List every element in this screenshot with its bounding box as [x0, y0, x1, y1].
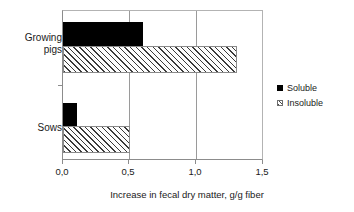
- x-tick-mark-0: [62, 160, 63, 164]
- x-axis-title: Increase in fecal dry matter, g/g fiber: [0, 189, 354, 200]
- legend: Soluble Insoluble: [277, 83, 323, 108]
- x-tick-mark-3: [262, 160, 263, 164]
- legend-item-soluble: Soluble: [277, 83, 323, 93]
- y-axis-tick-mid: [58, 85, 62, 86]
- legend-label-insoluble: Insoluble: [287, 98, 323, 108]
- bar-sows-soluble: [63, 103, 77, 126]
- x-tick-mark-1: [128, 160, 129, 164]
- category-label-growing-pigs: Growing pigs: [25, 32, 62, 55]
- bar-chart: Growing pigs Sows 0,0 0,5 1,0 1,5 Increa…: [0, 0, 354, 212]
- x-tick-label-2: 1,0: [188, 166, 201, 177]
- x-tick-mark-2: [195, 160, 196, 164]
- bar-growing-pigs-insoluble: [63, 46, 237, 73]
- bar-growing-pigs-soluble: [63, 22, 143, 46]
- legend-label-soluble: Soluble: [287, 83, 317, 93]
- x-tick-label-0: 0,0: [55, 166, 68, 177]
- category-label-sows: Sows: [38, 122, 62, 134]
- legend-item-insoluble: Insoluble: [277, 98, 323, 108]
- x-tick-label-3: 1,5: [255, 166, 268, 177]
- x-tick-label-1: 0,5: [121, 166, 134, 177]
- plot-area: [62, 10, 263, 160]
- bar-sows-insoluble: [63, 126, 130, 153]
- legend-swatch-insoluble-icon: [277, 100, 283, 106]
- legend-swatch-soluble-icon: [277, 85, 283, 91]
- gridline-1-0: [196, 11, 197, 159]
